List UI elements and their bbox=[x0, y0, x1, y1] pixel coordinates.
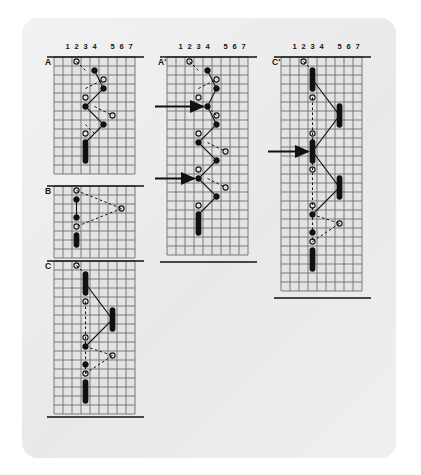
filled-circle-marker bbox=[83, 344, 89, 350]
filled-circle-marker bbox=[196, 176, 202, 182]
black-bar-marker bbox=[110, 307, 116, 332]
filled-circle-marker bbox=[83, 362, 89, 368]
filled-circle-marker bbox=[205, 104, 211, 110]
black-bar-marker bbox=[337, 175, 343, 200]
column-header-5: 5 bbox=[337, 42, 341, 51]
panel-label-panel-c: C bbox=[45, 261, 51, 271]
black-bar-marker bbox=[83, 271, 89, 296]
black-bar-marker bbox=[310, 247, 316, 272]
column-header-5: 5 bbox=[223, 42, 227, 51]
column-header-5: 5 bbox=[110, 42, 114, 51]
panel-label-panel-c-prime: C' bbox=[272, 57, 280, 67]
column-header-1: 1 bbox=[292, 42, 296, 51]
column-header-1: 1 bbox=[178, 42, 182, 51]
black-bar-marker bbox=[310, 67, 316, 92]
column-header-2: 2 bbox=[301, 42, 305, 51]
column-header-2: 2 bbox=[187, 42, 191, 51]
black-bar-marker bbox=[83, 139, 89, 164]
grid-layer bbox=[54, 57, 362, 414]
column-header-7: 7 bbox=[355, 42, 359, 51]
filled-circle-marker bbox=[83, 104, 89, 110]
column-header-4: 4 bbox=[205, 42, 210, 51]
black-bar-marker bbox=[310, 139, 316, 164]
filled-circle-marker bbox=[214, 86, 220, 92]
haplotype-grid-diagram: 1234567ABC1234567A'1234567C' bbox=[0, 0, 421, 475]
filled-circle-marker bbox=[214, 194, 220, 200]
filled-circle-marker bbox=[214, 122, 220, 128]
filled-circle-marker bbox=[101, 86, 107, 92]
column-header-2: 2 bbox=[74, 42, 78, 51]
column-header-7: 7 bbox=[128, 42, 132, 51]
filled-circle-marker bbox=[74, 197, 80, 203]
filled-circle-marker bbox=[310, 230, 316, 236]
filled-circle-marker bbox=[74, 215, 80, 221]
filled-circle-marker bbox=[214, 158, 220, 164]
filled-circle-marker bbox=[310, 212, 316, 218]
column-header-1: 1 bbox=[65, 42, 69, 51]
panel-label-panel-b: B bbox=[45, 186, 51, 196]
filled-circle-marker bbox=[101, 122, 107, 128]
panel-label-panel-a-prime: A' bbox=[158, 57, 166, 67]
column-header-3: 3 bbox=[83, 42, 87, 51]
panel-label-panel-a: A bbox=[45, 57, 51, 67]
column-header-3: 3 bbox=[310, 42, 314, 51]
column-header-6: 6 bbox=[119, 42, 123, 51]
black-bar-marker bbox=[196, 211, 202, 236]
black-bar-marker bbox=[83, 379, 89, 404]
filled-circle-marker bbox=[205, 68, 211, 74]
column-header-4: 4 bbox=[319, 42, 324, 51]
filled-circle-marker bbox=[196, 140, 202, 146]
column-header-6: 6 bbox=[346, 42, 350, 51]
filled-circle-marker bbox=[92, 68, 98, 74]
column-header-4: 4 bbox=[92, 42, 97, 51]
column-header-6: 6 bbox=[232, 42, 236, 51]
black-bar-marker bbox=[74, 232, 80, 248]
black-bar-marker bbox=[337, 103, 343, 128]
figure-root: 1234567ABC1234567A'1234567C' Haplotype g… bbox=[0, 0, 421, 475]
column-header-3: 3 bbox=[196, 42, 200, 51]
column-header-7: 7 bbox=[241, 42, 245, 51]
